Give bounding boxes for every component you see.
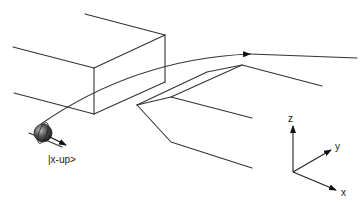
coordinate-axes: z y x: [288, 113, 346, 198]
box-top-back-edge: [85, 14, 165, 35]
box-device: [13, 14, 165, 114]
box-top-front-edge: [94, 35, 165, 68]
y-axis-label: y: [335, 141, 340, 152]
x-axis-label: x: [341, 187, 346, 198]
upper-path-inner: [171, 65, 242, 97]
middle-path: [137, 97, 252, 118]
z-axis-label: z: [288, 113, 293, 124]
box-bottom-left-edge: [14, 93, 94, 114]
y-axis-arrow-icon: [293, 150, 331, 172]
trajectory-continuation: [250, 54, 357, 58]
diagram-canvas: |x-up> z y x: [0, 0, 364, 204]
box-top-left-edge: [13, 47, 94, 68]
state-label: |x-up>: [48, 154, 76, 165]
box-bottom-front-edge: [94, 82, 165, 114]
spin-arrow-icon: [50, 137, 66, 145]
lower-path: [137, 105, 252, 168]
x-axis-arrow-icon: [293, 172, 336, 190]
spin-particle: [29, 121, 66, 147]
sphere-icon: [34, 124, 52, 142]
